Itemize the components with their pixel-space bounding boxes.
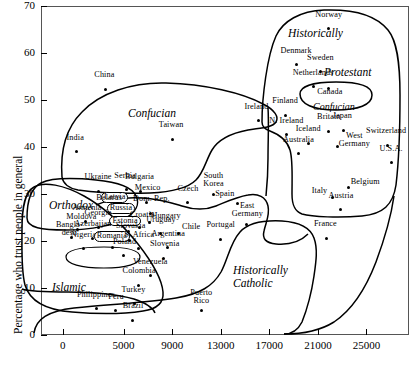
x-tick-mark: [318, 329, 319, 335]
data-point: [131, 319, 134, 322]
data-point: [75, 150, 78, 153]
data-point-label: India: [43, 134, 107, 142]
x-tick-label: 21000: [292, 340, 344, 351]
y-tick-mark: [41, 194, 47, 195]
y-tick-mark: [41, 147, 47, 148]
cluster-label: Historically Catholic: [233, 264, 288, 290]
x-tick-mark: [172, 329, 173, 335]
x-tick-mark: [269, 329, 270, 335]
y-tick-mark: [41, 288, 47, 289]
x-tick-label: 13000: [195, 340, 247, 351]
data-point-label: East Germany: [215, 202, 279, 219]
y-tick-mark: [41, 241, 47, 242]
cluster-label: Historically: [288, 27, 343, 40]
data-point: [82, 247, 85, 250]
y-tick-label: 60: [7, 47, 35, 57]
data-point: [200, 309, 203, 312]
data-point-label: Bulgaria: [108, 173, 172, 181]
x-tick-label: 0: [37, 340, 89, 351]
data-point-label: Brazil: [101, 302, 165, 310]
y-tick-label: 0: [7, 329, 35, 339]
y-tick-mark: [41, 6, 47, 7]
y-tick-mark: [41, 53, 47, 54]
data-point-label: Peru: [84, 293, 148, 301]
data-point-label: Belgium: [333, 178, 397, 186]
cluster-label: Protestant: [324, 66, 372, 79]
data-point: [171, 138, 174, 141]
data-point-label: Colombia: [107, 267, 171, 275]
x-tick-label: 17000: [243, 340, 295, 351]
data-point-label: Ireland: [224, 103, 288, 111]
cluster-label: Confucian: [313, 100, 355, 113]
data-point-label: China: [72, 71, 136, 79]
x-tick-label: 9000: [146, 340, 198, 351]
data-point-label: Taiwan: [139, 121, 203, 129]
y-tick-mark: [41, 100, 47, 101]
y-tick-mark: [41, 335, 47, 336]
cluster-label: Islamic: [52, 281, 86, 294]
x-tick-mark: [63, 329, 64, 335]
data-point-label: Sweden: [288, 54, 352, 62]
cluster-label: Orthodox: [49, 199, 93, 212]
data-point: [245, 223, 248, 226]
x-tick-mark: [221, 329, 222, 335]
data-point-label: U.S.A.: [359, 145, 410, 153]
data-point: [104, 88, 107, 91]
x-tick-label: 5000: [98, 340, 150, 351]
data-point-label: Australia: [266, 136, 330, 144]
y-tick-label: 10: [7, 282, 35, 292]
data-point-label: Norway: [297, 11, 361, 19]
x-tick-mark: [366, 329, 367, 335]
data-point-label: Austria: [309, 192, 373, 200]
data-point-label: Puerto Rico: [169, 289, 233, 306]
y-tick-label: 30: [7, 188, 35, 198]
plot-frame: [41, 6, 409, 335]
x-tick-label: 25000: [340, 340, 392, 351]
data-point: [295, 63, 298, 66]
chart-canvas: Percentage who trust people in general 0…: [0, 0, 410, 370]
y-tick-label: 20: [7, 235, 35, 245]
cluster-label: Confucian: [128, 107, 176, 120]
data-point-label: Portugal: [189, 221, 253, 229]
data-point: [111, 246, 114, 249]
data-point-label: Spain: [193, 190, 257, 198]
y-tick-label: 70: [7, 0, 35, 10]
data-point: [325, 237, 328, 240]
data-point-label: Slovenia: [133, 240, 197, 248]
y-tick-label: 40: [7, 141, 35, 151]
data-point: [219, 238, 222, 241]
y-tick-label: 50: [7, 94, 35, 104]
data-point-label: Venezuela: [118, 258, 182, 266]
data-point-label: Canada: [298, 88, 362, 96]
data-point-label: France: [293, 220, 357, 228]
x-tick-mark: [124, 329, 125, 335]
